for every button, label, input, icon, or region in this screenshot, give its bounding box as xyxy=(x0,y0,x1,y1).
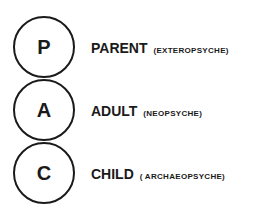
child-subtitle: ( ARCHAEOPSYCHE) xyxy=(140,172,225,181)
child-label: CHILD ( ARCHAEOPSYCHE) xyxy=(91,166,225,182)
parent-name: PARENT xyxy=(91,40,148,56)
adult-letter: A xyxy=(37,99,51,122)
child-name: CHILD xyxy=(91,166,134,182)
child-letter: C xyxy=(37,162,51,185)
parent-subtitle: (EXTEROPSYCHE) xyxy=(153,46,228,55)
parent-label: PARENT (EXTEROPSYCHE) xyxy=(91,40,229,56)
child-circle: C xyxy=(13,142,75,204)
parent-circle: P xyxy=(13,16,75,78)
parent-letter: P xyxy=(37,36,50,59)
adult-circle: A xyxy=(13,79,75,141)
adult-name: ADULT xyxy=(91,103,137,119)
adult-subtitle: (NEOPSYCHE) xyxy=(143,109,202,118)
adult-label: ADULT (NEOPSYCHE) xyxy=(91,103,202,119)
